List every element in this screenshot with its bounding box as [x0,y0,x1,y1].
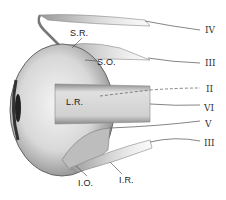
label-lateral-rectus: L.R. [66,97,83,107]
label-nerve-vi: VI [204,103,214,113]
label-inferior-oblique: I.O. [78,178,93,188]
label-nerve-iv: IV [205,25,215,35]
label-nerve-iii-upper: III [205,58,216,68]
eye-illustration [0,0,226,200]
label-inferior-rectus: I.R. [119,175,134,185]
label-nerve-v: V [205,119,212,129]
pupil [15,94,21,122]
label-superior-rectus: S.R. [70,28,88,38]
eye-muscle-diagram: S.R. S.O. L.R. I.O. I.R. IV III II VI V … [0,0,226,200]
label-nerve-iii-lower: III [204,138,215,148]
label-nerve-ii: II [206,84,213,94]
superior-oblique-muscle [39,15,200,48]
label-superior-oblique: S.O. [97,57,116,67]
